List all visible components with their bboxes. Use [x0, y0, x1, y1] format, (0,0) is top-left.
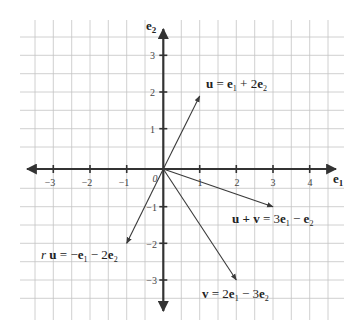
- x-tick-label: −2: [82, 177, 93, 188]
- y-tick-label: 2: [150, 87, 155, 98]
- y-tick-label: −3: [146, 275, 157, 286]
- vector-v-label: v = 2e1 − 3e2: [202, 286, 269, 303]
- y-tick-label: 3: [150, 50, 155, 61]
- x-tick-label: −1: [119, 177, 130, 188]
- vector-diagram: −3 −2 −1 1 2 3 4 3 2 1 −1 −2 −3 0 e1 e2 …: [0, 0, 360, 331]
- y-tick-label: −2: [146, 239, 157, 250]
- y-tick-label: −1: [146, 202, 157, 213]
- x-tick-label: 2: [235, 177, 240, 188]
- x-tick-label: 4: [308, 177, 313, 188]
- x-axis-label: e1: [333, 171, 344, 188]
- vector-ru-label: r u = −e1 − 2e2: [41, 247, 118, 264]
- vector-u-label: u = e1 + 2e2: [206, 76, 267, 93]
- x-tick-label: 3: [271, 177, 276, 188]
- x-tick-label: −3: [45, 177, 56, 188]
- vector-u-plus-v-label: u + v = 3e1 − e2: [232, 211, 313, 228]
- y-axis-label: e2: [146, 18, 157, 35]
- y-tick-label: 1: [150, 124, 155, 135]
